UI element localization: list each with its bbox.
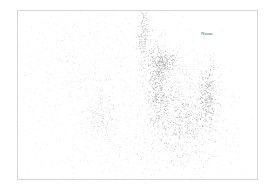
annotation-label: Noun <box>201 31 213 36</box>
scatter-plot <box>0 0 276 192</box>
points-layer <box>18 11 252 179</box>
